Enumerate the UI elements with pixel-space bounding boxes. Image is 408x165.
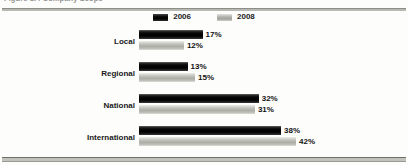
bar-group-international: International 38% 42% — [0, 126, 408, 148]
legend-swatch-2008-icon — [217, 14, 232, 21]
bar-row-international-2008: 42% — [139, 137, 315, 146]
bar-national-2008 — [139, 105, 255, 114]
category-label-national: National — [0, 94, 135, 116]
value-label-international-2006: 38% — [284, 127, 300, 135]
bar-row-international-2006: 38% — [139, 126, 300, 135]
chart-legend: 2006 2008 — [0, 13, 408, 21]
bar-regional-2008 — [139, 73, 195, 82]
value-label-international-2008: 42% — [299, 138, 315, 146]
top-divider — [2, 8, 406, 11]
bar-row-national-2006: 32% — [139, 94, 278, 103]
bar-group-local: Local 17% 12% — [0, 30, 408, 52]
bottom-divider — [2, 157, 406, 162]
value-label-local-2008: 12% — [187, 42, 203, 50]
category-label-international: International — [0, 126, 135, 148]
figure-caption: Figure 1.4 Company Scope — [4, 0, 103, 3]
value-label-regional-2008: 15% — [198, 74, 214, 82]
bar-local-2006 — [139, 30, 203, 39]
bar-international-2008 — [139, 137, 296, 146]
bar-row-regional-2008: 15% — [139, 73, 214, 82]
legend-item-2008: 2008 — [217, 13, 255, 21]
bar-international-2006 — [139, 126, 281, 135]
category-label-regional: Regional — [0, 62, 135, 84]
legend-item-2006: 2006 — [153, 13, 191, 21]
figure-container: Figure 1.4 Company Scope 2006 2008 Local… — [0, 0, 408, 165]
bar-local-2008 — [139, 41, 184, 50]
legend-label-2008: 2008 — [237, 13, 255, 21]
bar-group-regional: Regional 13% 15% — [0, 62, 408, 84]
bar-regional-2006 — [139, 62, 188, 71]
value-label-national-2008: 31% — [258, 106, 274, 114]
bar-group-national: National 32% 31% — [0, 94, 408, 116]
bar-row-local-2008: 12% — [139, 41, 203, 50]
legend-swatch-2006-icon — [153, 14, 168, 21]
plot-area: Local 17% 12% Regional 13% 15% National — [0, 28, 408, 156]
category-label-local: Local — [0, 30, 135, 52]
bar-row-local-2006: 17% — [139, 30, 222, 39]
bar-row-regional-2006: 13% — [139, 62, 207, 71]
legend-label-2006: 2006 — [173, 13, 191, 21]
value-label-local-2006: 17% — [206, 31, 222, 39]
bar-row-national-2008: 31% — [139, 105, 274, 114]
bar-national-2006 — [139, 94, 259, 103]
value-label-regional-2006: 13% — [191, 63, 207, 71]
value-label-national-2006: 32% — [262, 95, 278, 103]
